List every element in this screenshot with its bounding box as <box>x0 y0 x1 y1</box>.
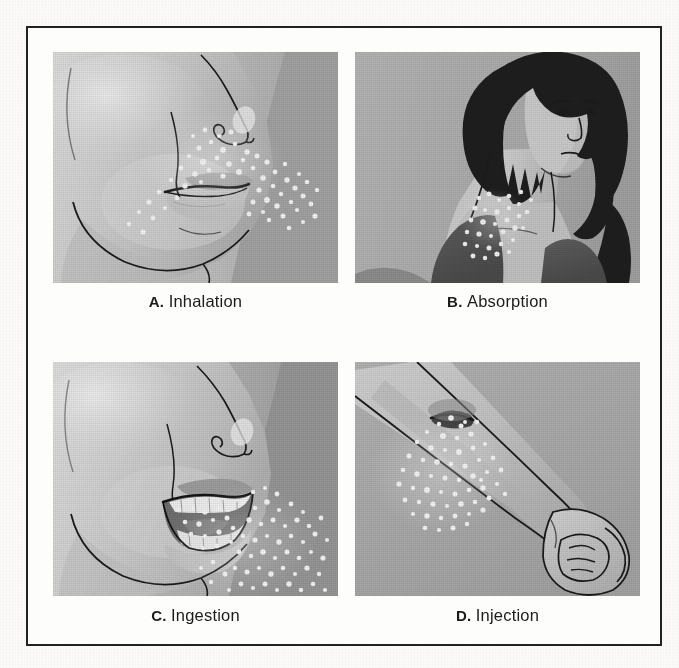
panel-grid: A. Inhalation <box>28 28 660 644</box>
caption-label-b: Absorption <box>467 292 548 310</box>
caption-letter-a: A. <box>149 293 164 310</box>
illustration-injection <box>355 362 640 596</box>
caption-injection: D. Injection <box>355 606 640 625</box>
panel-absorption <box>355 52 640 283</box>
caption-letter-d: D. <box>456 607 471 624</box>
caption-letter-b: B. <box>447 293 462 310</box>
panel-inhalation <box>53 52 338 283</box>
illustration-ingestion <box>53 362 338 596</box>
illustration-inhalation <box>53 52 338 283</box>
illustration-absorption <box>355 52 640 283</box>
caption-label-d: Injection <box>476 606 539 624</box>
caption-absorption: B. Absorption <box>355 292 640 311</box>
caption-label-c: Ingestion <box>171 606 240 624</box>
caption-label-a: Inhalation <box>169 292 243 310</box>
caption-ingestion: C. Ingestion <box>53 606 338 625</box>
figure-frame: A. Inhalation <box>26 26 662 646</box>
panel-ingestion <box>53 362 338 596</box>
caption-inhalation: A. Inhalation <box>53 292 338 311</box>
panel-injection <box>355 362 640 596</box>
caption-letter-c: C. <box>151 607 166 624</box>
